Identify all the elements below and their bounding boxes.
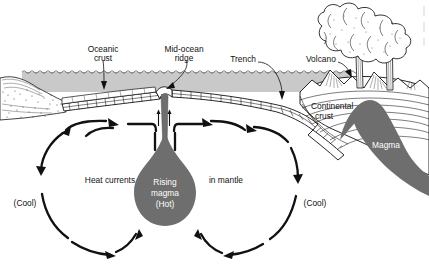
heat-currents-label: Heat currents <box>85 175 135 185</box>
rising-magma-label-line1: Rising <box>153 177 177 187</box>
diagram-canvas: Oceanic crust Mid-ocean ridge Trench Vol… <box>0 0 429 272</box>
cool-left-label: (Cool) <box>14 198 37 208</box>
volcano-label: Volcano <box>306 54 336 64</box>
rising-magma-label-line2: magma <box>151 188 179 198</box>
continental-crust-label-line2: crust <box>315 111 334 121</box>
rising-magma-label-line3: (Hot) <box>156 199 175 209</box>
magma-label: Magma <box>372 140 400 150</box>
mid-ocean-ridge-label-line2: ridge <box>175 53 194 63</box>
continental-crust-label-line1: Continental <box>311 101 354 111</box>
trench-label: Trench <box>230 54 256 64</box>
label-mid-ocean-ridge: Mid-ocean ridge <box>164 44 203 63</box>
in-mantle-label: in mantle <box>209 175 243 185</box>
cool-right-label: (Cool) <box>304 198 327 208</box>
oceanic-crust-label-line2: crust <box>94 53 113 63</box>
tectonics-diagram: Oceanic crust Mid-ocean ridge Trench Vol… <box>0 0 429 272</box>
convection-cell-left-arrowheads <box>36 118 143 259</box>
label-oceanic-crust: Oceanic crust <box>88 44 119 63</box>
